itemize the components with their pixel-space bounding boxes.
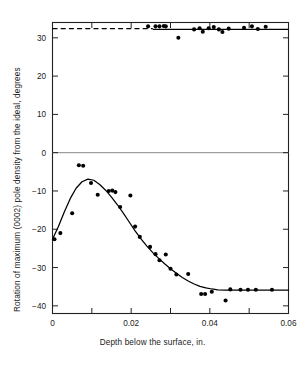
data-point-s1-15 — [154, 252, 158, 256]
chart-canvas: 00.020.040.063020100−10−20−30−40 — [0, 0, 305, 365]
data-point-s0-6 — [192, 27, 196, 31]
data-point-s0-12 — [220, 30, 224, 34]
x-axis-title: Depth below the surface, in. — [0, 338, 305, 347]
data-point-s0-15 — [250, 24, 254, 28]
x-tick-label-6: 0.06 — [281, 319, 297, 328]
x-tick-label-0: 0 — [50, 319, 55, 328]
data-point-s1-9 — [113, 190, 117, 194]
fit-curve-2 — [53, 179, 289, 290]
data-point-s0-7 — [198, 26, 202, 30]
data-point-s1-28 — [254, 288, 258, 292]
data-point-s1-18 — [168, 267, 172, 271]
data-point-s0-11 — [217, 27, 221, 31]
y-tick-label-3: 0 — [41, 149, 46, 158]
data-point-s1-0 — [52, 237, 56, 241]
data-point-s1-21 — [199, 292, 203, 296]
data-point-s0-16 — [256, 27, 260, 31]
data-point-s1-26 — [238, 288, 242, 292]
data-point-s1-13 — [138, 235, 142, 239]
data-point-s1-23 — [210, 290, 214, 294]
data-point-s1-2 — [70, 211, 74, 215]
data-point-s1-27 — [246, 288, 250, 292]
data-point-s1-6 — [96, 193, 100, 197]
data-point-s1-4 — [81, 164, 85, 168]
data-point-s1-1 — [58, 231, 62, 235]
data-point-s1-7 — [107, 189, 111, 193]
y-axis-title-container: Rotation of maximum (0002) pole density … — [0, 0, 20, 330]
data-point-s1-19 — [174, 272, 178, 276]
data-point-s0-4 — [164, 24, 168, 28]
y-tick-label-7: −40 — [32, 302, 46, 311]
data-point-s0-13 — [227, 27, 231, 31]
data-point-s0-0 — [146, 24, 150, 28]
data-point-s1-20 — [186, 272, 190, 276]
data-point-s1-10 — [118, 205, 122, 209]
figure-container: 00.020.040.063020100−10−20−30−40 Rotatio… — [0, 0, 305, 365]
data-point-s1-16 — [157, 258, 161, 262]
data-point-s1-17 — [164, 252, 168, 256]
data-point-s1-11 — [128, 194, 132, 198]
y-tick-label-4: −10 — [32, 187, 46, 196]
y-axis-title: Rotation of maximum (0002) pole density … — [13, 67, 22, 312]
data-point-s1-3 — [77, 163, 81, 167]
data-point-s1-29 — [270, 288, 274, 292]
data-point-s1-12 — [133, 225, 137, 229]
data-point-s0-14 — [242, 26, 246, 30]
data-point-s1-5 — [89, 181, 93, 185]
data-point-s1-24 — [224, 298, 228, 302]
x-tick-label-4: 0.04 — [202, 319, 218, 328]
x-tick-label-2: 0.02 — [123, 319, 139, 328]
data-point-s0-9 — [207, 26, 211, 30]
y-tick-label-1: 20 — [37, 72, 47, 81]
data-point-s1-25 — [228, 287, 232, 291]
y-tick-label-2: 10 — [37, 110, 47, 119]
data-point-s1-22 — [203, 292, 207, 296]
y-tick-label-0: 30 — [37, 34, 47, 43]
data-point-s0-17 — [264, 25, 268, 29]
y-tick-label-5: −20 — [32, 225, 46, 234]
data-point-s1-14 — [148, 245, 152, 249]
data-point-s0-8 — [201, 30, 205, 34]
data-point-s0-5 — [176, 36, 180, 40]
data-point-s0-1 — [154, 24, 158, 28]
y-tick-label-6: −30 — [32, 264, 46, 273]
data-point-s0-2 — [157, 24, 161, 28]
data-point-s0-10 — [212, 25, 216, 29]
